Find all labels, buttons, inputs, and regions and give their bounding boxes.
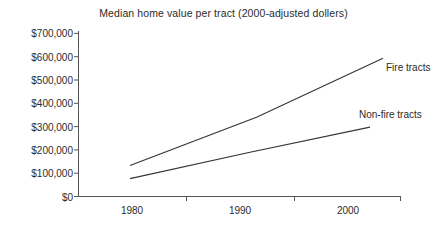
series-line-non-fire-tracts [130, 127, 370, 179]
y-tick-label-700000: $700,000 [31, 28, 73, 39]
x-tick-label-2000: 2000 [337, 205, 359, 216]
series-label-fire-tracts: Fire tracts [386, 62, 430, 73]
x-tick-label-1990: 1990 [229, 205, 251, 216]
y-tick-label-200000: $200,000 [31, 144, 73, 155]
x-tick-label-1980: 1980 [121, 205, 143, 216]
chart-container: Median home value per tract (2000-adjust… [0, 0, 447, 237]
y-tick-label-300000: $300,000 [31, 121, 73, 132]
series-label-non-fire-tracts: Non-fire tracts [359, 109, 422, 120]
x-axis-ticks [187, 197, 401, 202]
y-tick-label-400000: $400,000 [31, 98, 73, 109]
y-tick-label-500000: $500,000 [31, 75, 73, 86]
series-line-fire-tracts [130, 58, 383, 165]
y-tick-label-600000: $600,000 [31, 51, 73, 62]
y-tick-label-100000: $100,000 [31, 168, 73, 179]
y-tick-label-0: $0 [62, 191, 73, 202]
y-axis-ticks [74, 33, 79, 196]
